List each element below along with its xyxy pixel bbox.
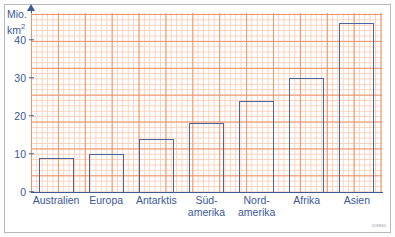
x-axis-label: Antarktis [131,195,181,207]
bar [289,78,324,192]
y-tick-label: 20 [0,110,26,122]
bar [239,101,274,192]
bar [339,23,374,192]
x-axis-label: Nord- amerika [232,195,282,218]
y-tick-label: 30 [0,72,26,84]
x-axis-label: Australien [31,195,81,207]
x-axis-label: Süd- amerika [181,195,231,218]
bar [189,123,224,192]
y-tick-mark [29,153,34,154]
figure-code: 118860 [372,223,386,228]
y-tick-label: 0 [0,186,26,198]
screenshot-root: Mio. km2 010203040 AustralienEuropaAntar… [0,0,395,237]
y-tick-label: 40 [0,34,26,46]
plot-area [31,13,382,192]
x-axis-label: Afrika [282,195,332,207]
x-axis-label: Europa [81,195,131,207]
y-axis-title: Mio. km2 [7,9,27,36]
y-tick-mark [29,115,34,116]
bar [139,139,174,192]
bar [39,158,74,192]
y-axis-title-line1: Mio. [7,8,27,20]
y-axis-title-exponent: 2 [21,22,25,31]
y-tick-mark [29,191,34,192]
y-tick-mark [29,77,34,78]
y-tick-label: 10 [0,148,26,160]
y-tick-mark [29,39,34,40]
y-axis-arrow-icon [27,4,35,11]
x-axis-label: Asien [332,195,382,207]
bar [89,154,124,192]
